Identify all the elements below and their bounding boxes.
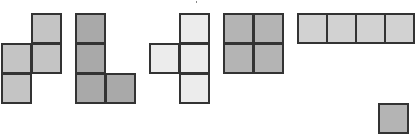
piece-cell bbox=[75, 43, 106, 74]
piece-cell bbox=[1, 43, 32, 74]
piece-cell bbox=[149, 43, 180, 74]
piece-cell bbox=[223, 43, 254, 74]
piece-cell bbox=[223, 13, 254, 44]
piece-cell bbox=[297, 13, 328, 44]
piece-cell bbox=[31, 13, 62, 44]
piece-cell bbox=[179, 73, 210, 104]
piece-cell bbox=[105, 73, 136, 104]
piece-cell bbox=[378, 103, 409, 134]
piece-cell bbox=[326, 13, 357, 44]
piece-cell bbox=[31, 43, 62, 74]
stray-mark bbox=[196, 1, 197, 3]
piece-cell bbox=[253, 13, 284, 44]
piece-cell bbox=[253, 43, 284, 74]
piece-cell bbox=[384, 13, 415, 44]
piece-cell bbox=[75, 13, 106, 44]
piece-cell bbox=[355, 13, 386, 44]
piece-cell bbox=[179, 13, 210, 44]
piece-cell bbox=[179, 43, 210, 74]
piece-cell bbox=[75, 73, 106, 104]
piece-cell bbox=[1, 73, 32, 104]
